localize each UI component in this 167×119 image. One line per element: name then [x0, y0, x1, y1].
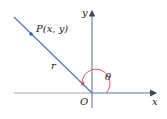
origin-label: O — [80, 96, 88, 107]
polar-coordinate-diagram: P(x, y) r θ O x y — [0, 0, 167, 119]
point-label: P(x, y) — [35, 23, 68, 34]
angle-label: θ — [105, 71, 111, 82]
y-axis-label: y — [81, 7, 88, 18]
diagram-canvas: P(x, y) r θ O x y — [0, 0, 167, 119]
point-p — [29, 32, 33, 36]
x-axis-label: x — [152, 96, 158, 107]
radius-label: r — [51, 60, 57, 71]
